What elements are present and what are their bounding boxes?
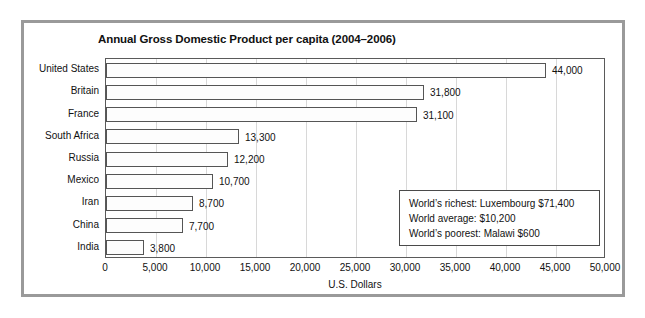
bar [106, 174, 213, 189]
x-tick-label: 15,000 [240, 262, 271, 273]
chart-title: Annual Gross Domestic Product per capita… [98, 33, 396, 45]
x-tick-label: 35,000 [440, 262, 471, 273]
y-axis-category-labels: United StatesBritainFranceSouth AfricaRu… [0, 58, 99, 258]
bar-row: 10,700 [106, 174, 606, 189]
bar-value-label: 44,000 [552, 65, 583, 76]
x-tick-label: 5,000 [142, 262, 167, 273]
x-tick-label: 20,000 [290, 262, 321, 273]
x-axis-title: U.S. Dollars [105, 279, 605, 290]
bar [106, 129, 239, 144]
category-label-russia: Russia [68, 152, 99, 163]
bar [106, 85, 424, 100]
bar-row: 12,200 [106, 152, 606, 167]
bar-row: 13,300 [106, 129, 606, 144]
annotation-box: World’s richest: Luxembourg $71,400World… [399, 190, 600, 246]
x-tick-label: 50,000 [590, 262, 621, 273]
category-label-britain: Britain [71, 85, 99, 96]
annotation-line: World’s poorest: Malawi $600 [409, 226, 599, 241]
bar-value-label: 31,800 [430, 87, 461, 98]
x-tick-label: 0 [102, 262, 108, 273]
bar-row: 31,800 [106, 85, 606, 100]
x-tick-label: 40,000 [490, 262, 521, 273]
bar [106, 218, 183, 233]
bar-value-label: 12,200 [234, 154, 265, 165]
category-label-china: China [73, 219, 99, 230]
chart-figure: Annual Gross Domestic Product per capita… [0, 0, 645, 318]
annotation-line: World’s richest: Luxembourg $71,400 [409, 196, 599, 211]
gridline [606, 59, 607, 257]
category-label-united-states: United States [39, 63, 99, 74]
bar [106, 152, 228, 167]
category-label-india: India [77, 241, 99, 252]
category-label-mexico: Mexico [67, 174, 99, 185]
bar-value-label: 10,700 [219, 176, 250, 187]
bar-row: 44,000 [106, 63, 606, 78]
bar-row: 31,100 [106, 107, 606, 122]
x-tick-label: 25,000 [340, 262, 371, 273]
bar-value-label: 3,800 [150, 242, 175, 253]
bar-value-label: 31,100 [423, 109, 454, 120]
x-tick-label: 45,000 [540, 262, 571, 273]
x-axis-tick-labels: 05,00010,00015,00020,00025,00030,00035,0… [0, 262, 645, 278]
annotation-line: World average: $10,200 [409, 211, 599, 226]
category-label-france: France [68, 108, 99, 119]
bar-value-label: 7,700 [189, 220, 214, 231]
bar-value-label: 8,700 [199, 198, 224, 209]
bar [106, 196, 193, 211]
bar-value-label: 13,300 [245, 131, 276, 142]
category-label-iran: Iran [82, 196, 99, 207]
category-label-south-africa: South Africa [45, 130, 99, 141]
bar [106, 63, 546, 78]
x-tick-label: 10,000 [190, 262, 221, 273]
x-tick-label: 30,000 [390, 262, 421, 273]
bar [106, 107, 417, 122]
bar [106, 240, 144, 255]
